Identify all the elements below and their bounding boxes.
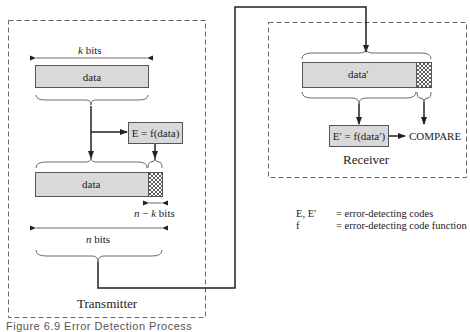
received-code-pattern [417,63,432,88]
brace-code [148,158,162,168]
legend-row: f= error-detecting code function [296,220,467,232]
e-prime-function-box: E′ = f(data′) [329,125,389,147]
data2-label: data [82,178,100,190]
code-bits-pattern [149,173,163,197]
transmission-line [98,7,366,288]
receiver-title: Receiver [343,152,389,168]
received-data-label: data′ [348,68,369,80]
e-function-box: E = f(data) [128,122,183,144]
brace-data [36,95,148,105]
legend-row: E, E′= error-detecting codes [296,208,467,220]
figure-caption: Figure 6.9 Error Detection Process [6,320,192,332]
compare-label: COMPARE [409,130,461,142]
brace-data2 [36,157,147,168]
transmitter-title: Transmitter [77,296,137,312]
k-bits-label: k k bitsbits [78,44,102,56]
legend: E, E′= error-detecting codes f= error-de… [296,208,467,232]
data-block: data [35,65,149,88]
n-bits-label: n bits [86,233,110,245]
n-minus-k-bits-label: n − k bits [134,207,175,219]
